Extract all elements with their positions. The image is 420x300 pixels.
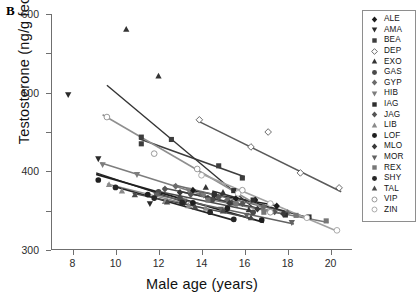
legend-item-gas[interactable]: GAS [363,67,415,78]
data-point [123,26,129,32]
circle-filled-icon [368,67,381,77]
square-filled-icon [368,99,381,109]
data-point [216,163,221,168]
legend-item-rex[interactable]: REX [363,162,415,173]
legend-item-vip[interactable]: VIP [363,194,415,205]
legend-item-lof[interactable]: LOF [363,131,415,142]
legend-item-label: SHY [384,174,401,182]
y-tick-label: 400 [21,165,39,177]
legend: ALEAMABEADEPEXOGASGYPHIBIAGJAGLIBLOFMLOM… [362,10,416,222]
data-point [248,144,255,151]
data-point [231,216,237,222]
data-point [95,156,101,162]
legend-item-zin[interactable]: ZIN [363,205,415,216]
data-point [145,192,151,198]
diamond-open-icon [368,46,381,56]
data-point [104,114,110,120]
legend-item-mlo[interactable]: MLO [363,141,415,152]
x-tick-label: 10 [110,257,122,269]
legend-item-label: JAG [384,111,400,119]
data-point [203,184,209,190]
y-tick-label: 500 [21,87,39,99]
data-point [267,209,273,215]
data-point [207,209,213,215]
x-tick-label: 18 [282,257,294,269]
data-point [205,197,210,202]
diamond-filled-icon [368,110,381,120]
data-point [155,73,161,79]
circle-filled-icon [368,131,381,141]
legend-item-tal[interactable]: TAL [363,184,415,195]
legend-item-label: DEP [384,47,401,55]
data-point [139,135,144,140]
legend-item-iag[interactable]: IAG [363,99,415,110]
data-point [173,183,179,190]
legend-item-exo[interactable]: EXO [363,56,415,67]
legend-item-label: LIB [384,121,397,129]
legend-item-shy[interactable]: SHY [363,173,415,184]
data-point [162,186,168,193]
data-point [95,177,101,183]
legend-item-label: VIP [384,195,398,203]
panel-letter: B [6,4,15,17]
triangle-down-icon [368,88,381,98]
data-point [294,213,299,218]
diamond-filled-icon [368,78,381,88]
legend-item-bea[interactable]: BEA [363,35,415,46]
data-point [147,201,153,207]
data-point [261,210,266,215]
data-point [324,218,329,223]
legend-item-hib[interactable]: HIB [363,88,415,99]
legend-item-mor[interactable]: MOR [363,152,415,163]
triangle-down-icon [368,25,381,35]
triangle-up-icon [368,120,381,130]
data-point [259,217,265,223]
legend-item-label: MOR [384,153,404,161]
legend-item-ale[interactable]: ALE [363,14,415,25]
regression-line [103,115,273,214]
legend-item-label: MLO [384,142,402,150]
diamond-filled-icon [368,141,381,151]
data-point [179,200,185,206]
legend-item-label: TAL [384,185,399,193]
legend-item-label: BEA [384,36,401,44]
legend-item-jag[interactable]: JAG [363,109,415,120]
legend-item-label: ZIN [384,206,398,214]
x-tick-label: 16 [239,257,251,269]
circle-open-icon [368,194,381,204]
data-point [99,162,105,168]
triangle-up-icon [368,184,381,194]
x-tick-label: 8 [70,257,76,269]
legend-item-gyp[interactable]: GYP [363,78,415,89]
x-tick-mark [245,250,246,255]
circle-filled-icon [368,173,381,183]
figure-panel-b: B Testosterone (ng/g feces) 010020030040… [0,0,420,300]
data-point [240,175,245,180]
data-point [334,227,340,233]
triangle-up-icon [368,57,381,67]
x-axis-title: Male age (years) [52,276,352,292]
square-filled-icon [368,163,381,173]
data-point [265,129,272,136]
data-point [194,166,200,172]
legend-item-lib[interactable]: LIB [363,120,415,131]
scatter-canvas [51,14,352,250]
diamond-filled-icon [368,14,381,24]
plot-area: 0100200300400500600 8101214161820 [51,14,352,250]
data-point [212,192,217,197]
data-point [113,185,119,191]
legend-item-ama[interactable]: AMA [363,25,415,36]
data-point [251,197,256,202]
square-filled-icon [368,35,381,45]
legend-item-label: LOF [384,132,400,140]
legend-item-label: AMA [384,26,402,34]
x-tick-mark [159,250,160,255]
data-point [151,195,157,201]
x-tick-label: 20 [325,257,337,269]
y-tick-label: 600 [21,8,39,20]
data-point [250,209,256,215]
data-point [65,92,71,98]
y-tick-label: 300 [21,244,39,256]
legend-item-dep[interactable]: DEP [363,46,415,57]
data-point [151,151,157,157]
